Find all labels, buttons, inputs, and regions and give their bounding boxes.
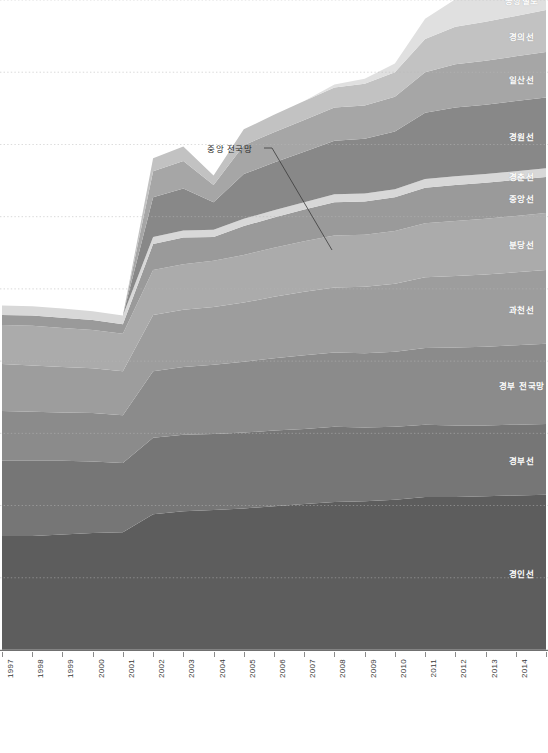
x-tick	[244, 652, 245, 657]
chart-svg	[0, 0, 548, 650]
x-tick-label: 2006	[278, 659, 287, 678]
x-tick-label: 2004	[218, 659, 227, 678]
x-tick-label: 1997	[6, 659, 15, 678]
x-axis: 1997199819992000200120022003200420052006…	[0, 650, 548, 753]
x-tick-label: 2002	[157, 659, 166, 678]
axis-rule	[0, 650, 548, 651]
x-tick	[516, 652, 517, 657]
x-tick	[32, 652, 33, 657]
x-tick	[123, 652, 124, 657]
x-tick	[153, 652, 154, 657]
x-tick-label: 2003	[187, 659, 196, 678]
x-tick	[93, 652, 94, 657]
x-tick-label: 1999	[66, 659, 75, 678]
x-tick-label: 2012	[459, 659, 468, 678]
x-tick	[2, 652, 3, 657]
x-tick	[395, 652, 396, 657]
x-tick	[304, 652, 305, 657]
x-tick-label: 1998	[36, 659, 45, 678]
chart-page: 중앙 전국망 경인선경부선경부 전국망과천선분당선중앙선경춘선경원선일산선경의선…	[0, 0, 548, 753]
annotation-label: 중앙 전국망	[207, 142, 252, 154]
x-tick-label: 2000	[97, 659, 106, 678]
x-tick-label: 2008	[338, 659, 347, 678]
x-tick-label: 2014	[520, 659, 529, 678]
x-tick-label: 2013	[490, 659, 499, 678]
x-tick	[334, 652, 335, 657]
x-tick	[455, 652, 456, 657]
x-tick	[365, 652, 366, 657]
x-tick-label: 2009	[369, 659, 378, 678]
x-tick	[425, 652, 426, 657]
stacked-area-plot	[0, 0, 548, 650]
x-tick	[546, 652, 547, 657]
x-tick	[274, 652, 275, 657]
x-tick	[486, 652, 487, 657]
x-tick	[62, 652, 63, 657]
x-tick-label: 2001	[127, 659, 136, 678]
x-tick-label: 2010	[399, 659, 408, 678]
x-tick	[183, 652, 184, 657]
x-tick	[214, 652, 215, 657]
x-tick-label: 2007	[308, 659, 317, 678]
x-tick-label: 2005	[248, 659, 257, 678]
x-tick-label: 2011	[429, 659, 438, 677]
